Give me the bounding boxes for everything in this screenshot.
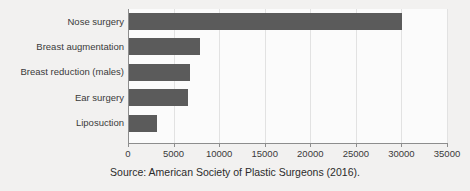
bar xyxy=(128,89,188,106)
category-label: Nose surgery xyxy=(0,16,124,27)
x-tick-label: 30000 xyxy=(388,148,414,159)
x-tick-label: 15000 xyxy=(251,148,277,159)
tick-mark xyxy=(219,143,220,147)
bar xyxy=(128,64,190,81)
category-label: Breast augmentation xyxy=(0,41,124,52)
category-label: Breast reduction (males) xyxy=(0,66,124,77)
source-caption: Source: American Society of Plastic Surg… xyxy=(0,166,470,178)
x-tick-label: 25000 xyxy=(343,148,369,159)
bar-chart: Nose surgeryBreast augmentationBreast re… xyxy=(0,0,470,191)
x-tick-label: 5000 xyxy=(163,148,184,159)
y-axis-line xyxy=(128,9,129,143)
tick-mark xyxy=(356,143,357,147)
x-tick-label: 0 xyxy=(125,148,130,159)
tick-mark xyxy=(401,143,402,147)
x-tick-label: 35000 xyxy=(434,148,460,159)
category-label: Liposuction xyxy=(0,117,124,128)
gridline xyxy=(447,9,448,143)
bar xyxy=(128,38,200,55)
x-axis-line xyxy=(128,143,447,144)
tick-mark xyxy=(128,143,129,147)
tick-mark xyxy=(310,143,311,147)
category-label: Ear surgery xyxy=(0,92,124,103)
x-tick-label: 20000 xyxy=(297,148,323,159)
tick-mark xyxy=(447,143,448,147)
tick-mark xyxy=(174,143,175,147)
bar xyxy=(128,13,402,30)
tick-mark xyxy=(265,143,266,147)
x-tick-label: 10000 xyxy=(206,148,232,159)
bar xyxy=(128,115,157,132)
